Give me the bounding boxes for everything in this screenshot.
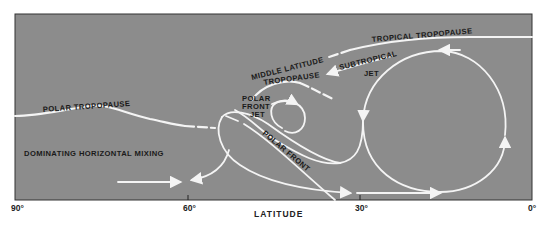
label-front-jet: JET (250, 110, 265, 119)
tick-label-90: 90° (11, 203, 24, 213)
x-axis-title: LATITUDE (254, 209, 303, 219)
label-subtropical-jet: JET (364, 69, 379, 78)
tick-label-30: 30° (355, 203, 368, 213)
atmospheric-circulation-diagram: TROPICAL TROPOPAUSE SUBTROPICAL JET MIDD… (0, 0, 550, 228)
label-horizontal-mixing: DOMINATING HORIZONTAL MIXING (24, 149, 164, 158)
tick-label-0: 0° (528, 203, 537, 213)
tick-label-60: 60° (183, 203, 196, 213)
